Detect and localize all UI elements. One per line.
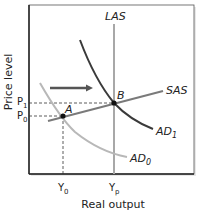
sas-label: SAS bbox=[166, 84, 188, 97]
point-a-label: A bbox=[64, 103, 73, 116]
point-b-label: B bbox=[117, 89, 125, 102]
x-axis-title: Real output bbox=[81, 198, 145, 211]
p0-tick-label: P0 bbox=[17, 110, 28, 124]
las-label: LAS bbox=[105, 10, 126, 23]
point-b bbox=[111, 100, 116, 105]
y0-tick-label: Y0 bbox=[57, 182, 69, 196]
yp-tick-label: Yp bbox=[108, 182, 120, 196]
ad-as-diagram: A B LAS SAS AD1 AD0 P1 P0 Y0 Yp Real out… bbox=[0, 0, 199, 215]
p1-tick-label: P1 bbox=[17, 96, 28, 110]
y-axis-title: Price level bbox=[2, 54, 15, 111]
